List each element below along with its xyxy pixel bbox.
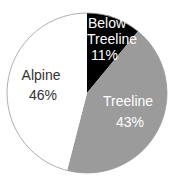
alpine-value: 46% — [29, 87, 57, 103]
pie-chart: Below Treeline 11% Treeline 43% Alpine 4… — [0, 0, 179, 182]
below-treeline-line-1: Below — [88, 15, 127, 31]
below-treeline-line-2: Treeline — [87, 31, 137, 47]
alpine-line-1: Alpine — [22, 67, 61, 83]
treeline-value: 43% — [116, 114, 144, 130]
treeline-line-1: Treeline — [103, 93, 153, 109]
below-treeline-value: 11% — [91, 47, 118, 63]
